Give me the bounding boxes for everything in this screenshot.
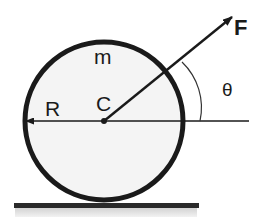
center-label: C bbox=[96, 92, 111, 115]
ground-shade bbox=[15, 207, 197, 217]
ground-surface bbox=[14, 203, 199, 208]
mass-label: m bbox=[94, 45, 112, 68]
angle-label: θ bbox=[222, 79, 233, 100]
force-label: F bbox=[234, 15, 247, 40]
rolling-disk-diagram: F m C R θ bbox=[0, 0, 261, 219]
center-point bbox=[101, 118, 107, 124]
radius-label: R bbox=[45, 97, 60, 120]
